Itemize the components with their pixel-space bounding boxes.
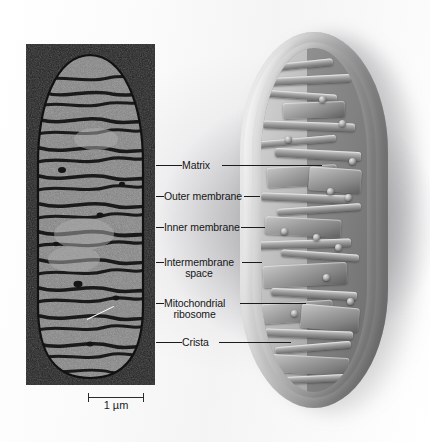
leader-line-matrix — [156, 165, 182, 166]
scale-bar-line — [88, 397, 144, 398]
leader-line-crista — [156, 342, 182, 343]
label-outer-membrane-text: Outer membrane — [164, 190, 242, 202]
leader-line-outer-membrane-right — [244, 196, 260, 197]
label-mitochondrial-ribosome-text-line2: ribosome — [164, 309, 225, 320]
ribosome-particle — [335, 244, 342, 251]
mitochondrion-3d-model — [232, 28, 410, 418]
label-crista: Crista — [182, 337, 209, 348]
ribosome-particle — [285, 136, 292, 143]
leader-line-intermembrane-space-right — [242, 262, 262, 263]
scale-bar-label: 1 µm — [72, 399, 160, 411]
label-inner-membrane: Inner membrane — [164, 222, 240, 233]
micrograph-image — [26, 44, 155, 385]
ribosome-particle — [291, 310, 298, 317]
leader-line-inner-membrane — [156, 227, 164, 228]
ribosome-particle — [319, 96, 326, 103]
label-outer-membrane: Outer membrane — [164, 191, 242, 202]
leader-line-intermembrane-space — [156, 262, 164, 263]
label-mitochondrial-ribosome: Mitochondrial ribosome — [164, 298, 225, 319]
ribosome-particle — [281, 228, 288, 235]
mitochondrion-figure: 1 µm — [0, 0, 430, 442]
label-intermembrane-space-text-line2: space — [164, 268, 234, 279]
ribosome-particle — [313, 234, 320, 241]
ribosome-particle — [327, 188, 334, 195]
leader-line-ribosome-right — [240, 303, 306, 304]
leader-line-inner-membrane-right — [241, 227, 265, 228]
electron-micrograph-panel — [26, 44, 155, 385]
leader-line-matrix-right — [222, 165, 322, 166]
label-matrix-text: Matrix — [182, 159, 210, 171]
label-crista-text: Crista — [182, 336, 209, 348]
leader-line-crista-right — [219, 342, 291, 343]
ribosome-particle — [349, 158, 356, 165]
leader-line-outer-membrane — [156, 196, 164, 197]
label-matrix: Matrix — [182, 160, 210, 171]
ribosome-particle — [339, 120, 346, 127]
ribosome-particle — [323, 274, 330, 281]
matrix-region — [261, 48, 367, 392]
label-intermembrane-space: Intermembrane space — [164, 257, 234, 278]
ribosome-particle — [347, 298, 354, 305]
label-inner-membrane-text: Inner membrane — [164, 221, 240, 233]
ribosome-particle — [345, 194, 352, 201]
leader-line-ribosome — [156, 303, 164, 304]
